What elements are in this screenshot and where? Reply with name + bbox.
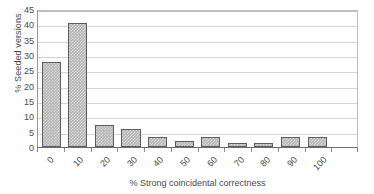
x-axis-label-cell: 100 xyxy=(305,152,332,178)
bar xyxy=(228,143,247,147)
bar-chart: % Seeded versions 051015202530354045 010… xyxy=(0,0,374,194)
bar-slot xyxy=(118,11,145,147)
x-axis-label-cell: 50 xyxy=(171,152,198,178)
x-axis-label-cell: 0 xyxy=(37,152,64,178)
plot-area xyxy=(37,10,358,148)
x-axis-label-cell: 70 xyxy=(224,152,251,178)
y-axis-tick-label: 30 xyxy=(0,52,34,61)
y-axis-tick-label: 15 xyxy=(0,98,34,107)
x-axis-label-cell: 30 xyxy=(117,152,144,178)
bar-series xyxy=(38,11,357,147)
y-axis-tick-label: 5 xyxy=(0,129,34,138)
bar xyxy=(42,62,61,147)
x-axis-tick-label: 50 xyxy=(179,155,192,168)
y-axis-tick-label: 10 xyxy=(0,113,34,122)
bar xyxy=(281,137,300,147)
bar xyxy=(148,137,167,147)
bar xyxy=(68,23,87,147)
bar-slot xyxy=(171,11,198,147)
x-axis-tick-label: 40 xyxy=(152,155,165,168)
x-axis-tick-label: 70 xyxy=(232,155,245,168)
bar-slot xyxy=(197,11,224,147)
bar-slot xyxy=(251,11,278,147)
bar-slot xyxy=(91,11,118,147)
x-axis-tick-label: 30 xyxy=(125,155,138,168)
x-axis-label-cell: 20 xyxy=(91,152,118,178)
x-axis-tick-labels: 0102030405060708090100 xyxy=(37,152,358,178)
x-axis-tick-label: 100 xyxy=(312,155,329,172)
x-axis-label-cell xyxy=(331,152,358,178)
x-axis-tick-label: 10 xyxy=(72,155,85,168)
x-axis-tick-label: 80 xyxy=(259,155,272,168)
bar xyxy=(308,137,327,147)
bar-slot xyxy=(277,11,304,147)
bar-slot xyxy=(65,11,92,147)
x-axis-tick-label: 60 xyxy=(206,155,219,168)
bar xyxy=(201,137,220,147)
y-axis-tick-label: 0 xyxy=(0,144,34,153)
y-axis-tick-label: 45 xyxy=(0,6,34,15)
x-axis-label-cell: 40 xyxy=(144,152,171,178)
y-axis-tick-labels: 051015202530354045 xyxy=(0,0,34,160)
bar-slot xyxy=(224,11,251,147)
x-axis-title: % Strong coincidental correctness xyxy=(37,178,358,188)
bar-slot-empty xyxy=(330,11,357,147)
x-axis-tick-label: 20 xyxy=(99,155,112,168)
y-axis-tick-label: 25 xyxy=(0,67,34,76)
bar-slot xyxy=(304,11,331,147)
bar-slot xyxy=(144,11,171,147)
y-axis-tick-label: 40 xyxy=(0,21,34,30)
x-axis-label-cell: 90 xyxy=(278,152,305,178)
bar-slot xyxy=(38,11,65,147)
x-axis-label-cell: 80 xyxy=(251,152,278,178)
y-axis-tick-label: 20 xyxy=(0,83,34,92)
bar xyxy=(254,143,273,147)
x-axis-tick-label: 0 xyxy=(46,155,56,165)
bar xyxy=(95,125,114,147)
bar xyxy=(121,129,140,147)
x-axis-label-cell: 60 xyxy=(198,152,225,178)
x-axis-label-cell: 10 xyxy=(64,152,91,178)
bar xyxy=(175,141,194,147)
y-axis-tick-label: 35 xyxy=(0,37,34,46)
x-axis-tick-label: 90 xyxy=(286,155,299,168)
